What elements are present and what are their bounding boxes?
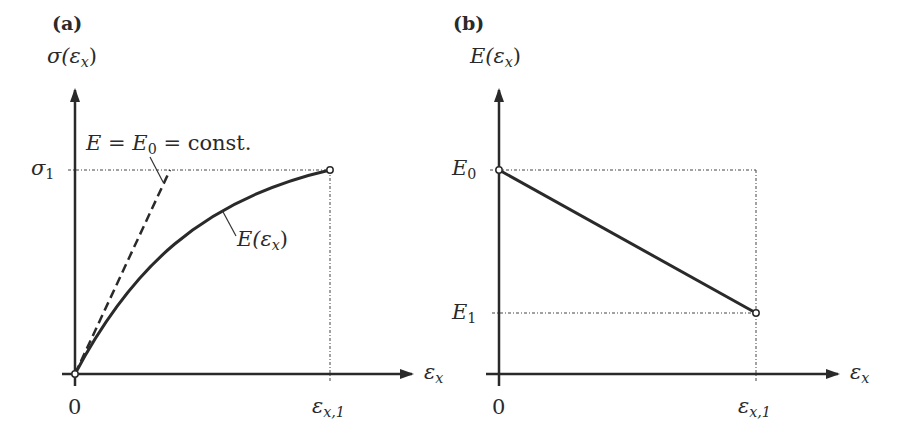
tangent-annotation: E = E0 = const. — [86, 133, 252, 157]
x-axis-label-b: εx — [850, 362, 869, 386]
e0-marker — [496, 167, 502, 173]
stress-strain-curve — [75, 170, 330, 374]
e0-tick-label: E0 — [452, 158, 476, 182]
origin-label-a: 0 — [68, 397, 81, 418]
panel-a-label: (a) — [52, 14, 82, 33]
epsx1-tick-label-a: εx,1 — [312, 396, 345, 420]
y-axis-label-b: E(εx) — [470, 46, 521, 70]
e1-tick-label: E1 — [452, 302, 476, 326]
modulus-line — [499, 170, 756, 313]
tangent-dashed-line — [75, 170, 170, 374]
curve-leader-line — [222, 210, 236, 236]
sigma1-tick-label: σ1 — [31, 158, 54, 182]
y-axis-label-a: σ(εx) — [47, 46, 97, 70]
curve-annotation: E(εx) — [237, 229, 288, 253]
e1-marker — [753, 310, 759, 316]
epsx1-tick-label-b: εx,1 — [738, 396, 771, 420]
origin-label-b: 0 — [492, 397, 505, 418]
diagram-canvas — [0, 0, 908, 439]
x-axis-label-a: εx — [424, 362, 443, 386]
endpoint-marker-a — [327, 167, 333, 173]
panel-b-label: (b) — [453, 14, 484, 33]
panel-b-plot — [486, 90, 838, 386]
origin-marker-a — [72, 371, 78, 377]
